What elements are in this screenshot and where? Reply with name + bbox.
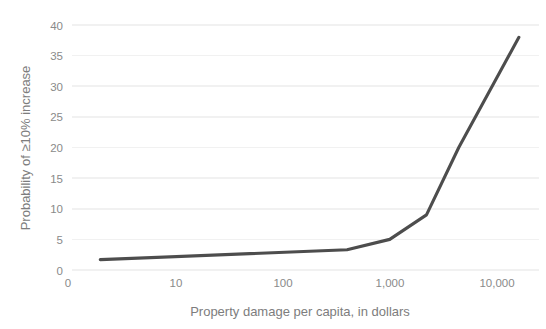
x-tick-label: 0: [65, 277, 71, 289]
series-line-probability: [100, 37, 519, 259]
line-chart: 40 35 30 25 20 15 10 5 0 0 10 100 1,000 …: [0, 0, 546, 329]
y-tick-label: 20: [50, 142, 63, 154]
x-axis-title: Property damage per capita, in dollars: [190, 304, 410, 319]
y-tick-label: 40: [50, 20, 63, 32]
chart-container: 40 35 30 25 20 15 10 5 0 0 10 100 1,000 …: [0, 0, 546, 329]
y-tick-label: 5: [57, 234, 63, 246]
y-tick-label: 25: [50, 111, 63, 123]
gridlines: [72, 25, 539, 270]
y-tick-label: 15: [50, 173, 63, 185]
y-axis-ticks: 40 35 30 25 20 15 10 5 0: [50, 20, 63, 277]
x-tick-label: 10: [170, 277, 183, 289]
y-tick-label: 0: [57, 265, 63, 277]
y-axis-title: Probability of ≥10% increase: [18, 66, 33, 231]
x-tick-label: 100: [273, 277, 292, 289]
y-tick-label: 35: [50, 50, 63, 62]
x-tick-label: 1,000: [376, 277, 405, 289]
y-tick-label: 10: [50, 203, 63, 215]
x-tick-label: 10,000: [479, 277, 514, 289]
y-tick-label: 30: [50, 81, 63, 93]
x-axis-ticks: 0 10 100 1,000 10,000: [65, 277, 515, 289]
